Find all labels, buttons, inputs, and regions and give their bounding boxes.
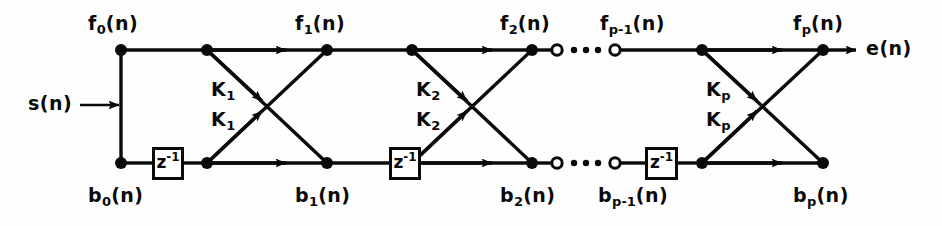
label-f1-base: f — [295, 12, 304, 34]
delay-block-1-exponent: -1 — [166, 150, 179, 164]
label-bp1-base: b — [598, 184, 612, 206]
label-f2-sub: 2 — [509, 22, 518, 37]
label-k1-lower: K1 — [211, 110, 235, 129]
label-kpl-base: K — [706, 108, 721, 130]
label-b0-arg: (n) — [111, 184, 143, 206]
label-fp1-sub: p-1 — [609, 22, 633, 37]
label-f1-sub: 1 — [304, 22, 313, 37]
label-b-p-minus-1: bp-1(n) — [598, 186, 668, 205]
label-bp1-arg: (n) — [636, 184, 668, 206]
label-k2u-sub: 2 — [431, 88, 440, 103]
label-f2: f2(n) — [500, 14, 550, 33]
delay-block-3-exponent: -1 — [660, 150, 673, 164]
label-fp: fp(n) — [793, 14, 844, 33]
label-f-p-minus-1: fp-1(n) — [600, 14, 665, 33]
label-f2-base: f — [500, 12, 509, 34]
label-f0-arg: (n) — [106, 12, 138, 34]
label-f1-arg: (n) — [313, 12, 345, 34]
label-b2: b2(n) — [500, 186, 556, 205]
label-fp-base: f — [793, 12, 802, 34]
delay-block-2-exponent: -1 — [403, 150, 416, 164]
label-b1-arg: (n) — [318, 184, 350, 206]
delay-block-3: z-1 — [645, 147, 678, 180]
delay-block-2-base: z — [393, 152, 403, 172]
label-kpu-base: K — [706, 78, 721, 100]
label-f0-base: f — [88, 12, 97, 34]
label-kp-upper: Kp — [706, 80, 731, 99]
label-b1-sub: 1 — [309, 194, 318, 209]
delay-block-1-base: z — [156, 152, 166, 172]
label-k2l-base: K — [416, 108, 431, 130]
label-fp-arg: (n) — [811, 12, 843, 34]
input-signal-label: s(n) — [28, 94, 72, 113]
label-f2-arg: (n) — [518, 12, 550, 34]
label-b2-sub: 2 — [514, 194, 523, 209]
delay-block-1: z-1 — [152, 147, 184, 180]
continuation-open-nodes — [552, 45, 620, 168]
top-ellipsis-dots — [571, 47, 601, 53]
label-k1-upper: K1 — [211, 80, 235, 99]
label-bp-base: b — [793, 184, 807, 206]
label-kpl-sub: p — [721, 118, 730, 133]
label-k1u-sub: 1 — [226, 88, 235, 103]
label-b0-sub: 0 — [102, 194, 111, 209]
label-kp-lower: Kp — [706, 110, 731, 129]
label-k2u-base: K — [416, 78, 431, 100]
stage-2-cross-branches — [412, 50, 532, 163]
label-k1l-base: K — [211, 108, 226, 130]
label-k1l-sub: 1 — [226, 118, 235, 133]
delay-block-2: z-1 — [389, 147, 421, 180]
bottom-ellipsis-dots — [571, 160, 601, 166]
label-k2-upper: K2 — [416, 80, 440, 99]
delay-block-3-base: z — [650, 152, 660, 172]
label-k2-lower: K2 — [416, 110, 440, 129]
label-bp1-sub: p-1 — [612, 194, 636, 209]
lattice-filter-diagram: z-1 z-1 z-1 f0(n) f1(n) f2(n) fp-1(n) fp… — [0, 0, 942, 226]
input-feed-line — [80, 50, 121, 163]
label-k1u-base: K — [211, 78, 226, 100]
label-f1: f1(n) — [295, 14, 345, 33]
stage-1-cross-branches — [207, 50, 327, 163]
label-fp1-arg: (n) — [633, 12, 665, 34]
label-b1: b1(n) — [295, 186, 351, 205]
label-f0: f0(n) — [88, 14, 138, 33]
label-b2-arg: (n) — [523, 184, 555, 206]
label-b0-base: b — [88, 184, 102, 206]
label-b2-base: b — [500, 184, 514, 206]
stage-p-cross-branches — [702, 50, 823, 163]
label-b0: b0(n) — [88, 186, 144, 205]
label-kpu-sub: p — [721, 88, 730, 103]
label-f0-sub: 0 — [97, 22, 106, 37]
label-fp1-base: f — [600, 12, 609, 34]
label-fp-sub: p — [802, 22, 811, 37]
label-k2l-sub: 2 — [431, 118, 440, 133]
label-bp-sub: p — [807, 194, 816, 209]
label-bp-arg: (n) — [816, 184, 848, 206]
output-signal-label: e(n) — [866, 39, 912, 58]
label-b1-base: b — [295, 184, 309, 206]
label-bp: bp(n) — [793, 186, 849, 205]
